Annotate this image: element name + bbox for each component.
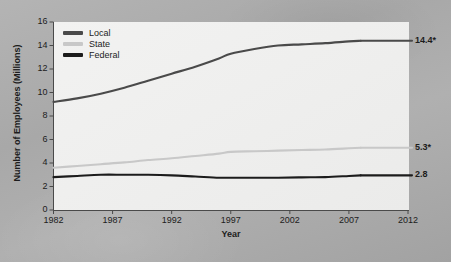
series-line-federal [54, 175, 361, 178]
chart-legend: Local State Federal [63, 28, 155, 61]
y-tick-label: 8 [26, 110, 48, 120]
legend-item-federal: Federal [63, 50, 155, 60]
series-line-state [54, 148, 361, 168]
data-label-federal: 2.8 [415, 169, 428, 179]
legend-swatch-local [63, 31, 83, 35]
y-tick-label: 10 [26, 87, 48, 97]
x-tick-label: 1992 [150, 215, 194, 225]
y-tick-label: 4 [26, 157, 48, 167]
data-label-local: 14.4* [415, 35, 436, 45]
x-tick-label: 2002 [268, 215, 312, 225]
x-tick-label: 2007 [327, 215, 371, 225]
x-axis-title: Year [53, 229, 409, 239]
y-tick-label: 0 [26, 204, 48, 214]
legend-item-local: Local [63, 28, 155, 38]
y-tick-label: 2 [26, 181, 48, 191]
legend-item-state: State [63, 39, 155, 49]
x-tick-label: 1987 [91, 215, 135, 225]
y-tick-label: 16 [26, 16, 48, 26]
y-axis-title: Number of Employees (Millions) [12, 18, 22, 208]
x-tick-label: 1997 [209, 215, 253, 225]
legend-swatch-federal [63, 53, 83, 57]
y-tick-label: 12 [26, 63, 48, 73]
x-tick-label: 2012 [386, 215, 430, 225]
y-tick-label: 6 [26, 134, 48, 144]
legend-swatch-state [63, 42, 83, 46]
y-tick-label: 14 [26, 40, 48, 50]
legend-label-local: Local [89, 28, 111, 38]
legend-label-state: State [89, 39, 110, 49]
x-tick-label: 1982 [32, 215, 76, 225]
legend-label-federal: Federal [89, 50, 120, 60]
data-label-state: 5.3* [415, 142, 431, 152]
